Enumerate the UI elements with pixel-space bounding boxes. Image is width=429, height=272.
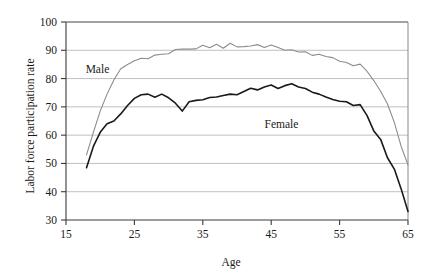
y-axis-tick-label: 60 [46, 129, 58, 141]
series-annotation-female: Female [265, 118, 299, 130]
y-axis-tick-label: 90 [46, 44, 58, 56]
chart-container: 152535455565 30405060708090100 MaleFemal… [0, 0, 429, 272]
x-axis-tick-label: 55 [334, 228, 346, 240]
y-axis-tick-label: 40 [46, 186, 58, 198]
y-axis-tick-label: 70 [46, 101, 58, 113]
y-axis-tick-label: 50 [46, 157, 58, 169]
x-axis-tick-label: 45 [265, 228, 277, 240]
x-axis-tick-label: 15 [60, 228, 72, 240]
y-axis-tick-label: 100 [40, 16, 58, 28]
y-axis-title: Labor force participation rate [24, 58, 37, 193]
y-axis-tick-label: 30 [46, 214, 58, 226]
labor-force-participation-line-chart: 152535455565 30405060708090100 MaleFemal… [0, 0, 429, 272]
x-axis-title: Age [221, 256, 240, 269]
x-axis-tick-label: 65 [402, 228, 414, 240]
series-annotation-male: Male [86, 63, 110, 75]
y-axis-tick-label: 80 [46, 73, 58, 85]
x-axis-tick-label: 25 [129, 228, 141, 240]
x-axis-tick-label: 35 [197, 228, 209, 240]
